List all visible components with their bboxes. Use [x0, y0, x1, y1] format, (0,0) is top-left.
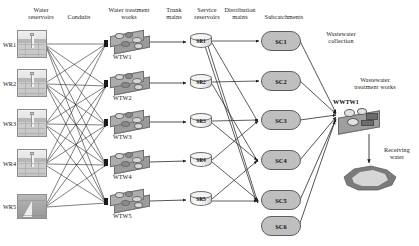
service-reservoir-label: SR3	[190, 118, 212, 124]
reservoir-grid-v2	[38, 82, 39, 96]
header-trunk-line1: Trunk	[166, 6, 181, 13]
header-receiving-water: Receiving water	[376, 146, 418, 160]
reservoir-knob	[30, 33, 34, 36]
node-label-WTW3: WTW3	[113, 133, 132, 140]
node-label-WTW4: WTW4	[113, 173, 132, 180]
reservoir-post	[31, 113, 34, 127]
header-wastewater-treatment-works: Wastewater treatment works	[340, 76, 410, 90]
water-treatment-works-WTW4-icon[interactable]	[108, 151, 150, 173]
conduit-edges	[47, 44, 106, 207]
reservoir-grid-h2	[19, 168, 45, 169]
header-wtw-line1: Water treatment	[108, 6, 149, 13]
header-wwtw-line2: treatment works	[354, 83, 396, 90]
wwtw-clarifier-3	[347, 118, 359, 126]
service-reservoir-SR4[interactable]: SR4	[190, 152, 212, 169]
node-label-WTW2: WTW2	[113, 94, 132, 101]
node-label-WR2: WR2	[3, 80, 16, 87]
diagram-canvas: Water reservoirs Conduits Water treatmen…	[0, 0, 419, 246]
header-wwtw-line1: Wastewater	[360, 76, 390, 83]
subcatchment-SC5[interactable]: SC5	[261, 190, 301, 210]
plant-tank-5	[134, 84, 143, 90]
node-label-WWTW1: WWTW1	[333, 98, 359, 105]
header-wwcoll-line2: collection	[328, 37, 353, 44]
wwtw-basin-1	[366, 113, 378, 120]
header-wastewater-collection: Wastewater collection	[314, 30, 368, 44]
service-reservoir-SR1[interactable]: SR1	[190, 33, 212, 50]
plant-tank-2	[125, 191, 133, 197]
header-recv-line2: water	[390, 153, 404, 160]
node-label-WR4: WR4	[3, 160, 16, 167]
distribution-main-edges	[205, 41, 259, 203]
plant-tank-5	[134, 123, 143, 129]
plant-tank-1	[115, 192, 124, 198]
reservoir-grid-h1	[19, 200, 45, 201]
reservoir-knob	[30, 112, 34, 115]
service-reservoir-SR5[interactable]: SR5	[190, 191, 212, 208]
water-reservoir-WR2-icon[interactable]	[17, 69, 47, 97]
reservoir-grid-v1	[25, 82, 26, 96]
plant-tank-5	[134, 202, 143, 208]
plant-tank-1	[115, 33, 124, 39]
wastewater-collection-edges	[299, 41, 336, 226]
header-wtw-line2: works	[121, 13, 137, 20]
water-treatment-works-WTW1-icon[interactable]	[108, 31, 150, 53]
service-reservoir-label: SR4	[190, 157, 212, 163]
plant-tank-2	[125, 152, 133, 158]
water-treatment-works-WTW5-icon[interactable]	[108, 190, 150, 212]
header-trunk-line2: mains	[166, 13, 181, 20]
reservoir-grid-h3	[19, 93, 45, 94]
node-label-WTW5: WTW5	[113, 212, 132, 219]
reservoir-grid-h3	[19, 133, 45, 134]
header-subcatchments: Subcatchments	[256, 13, 312, 20]
plant-tank-4	[121, 161, 130, 167]
water-reservoir-WR3-icon[interactable]	[17, 109, 47, 137]
reservoir-grid-v1	[25, 122, 26, 136]
reservoir-grid-h1	[19, 123, 45, 124]
header-water-reservoirs-line1: Water	[33, 6, 48, 13]
service-reservoir-label: SR1	[190, 38, 212, 44]
reservoir-grid-h3	[19, 173, 45, 174]
node-label-WR5: WR5	[3, 203, 16, 210]
wwtw-clarifier-1	[344, 109, 355, 117]
water-reservoir-WR1-icon[interactable]	[17, 30, 47, 58]
header-service-line1: Service	[197, 6, 216, 13]
subcatchment-SC1[interactable]: SC1	[261, 31, 301, 51]
subcatchment-SC2[interactable]: SC2	[261, 71, 301, 91]
plant-tank-4	[121, 41, 130, 47]
reservoir-post	[31, 34, 34, 48]
reservoir-grid-v2	[38, 43, 39, 57]
wastewater-treatment-works-WWTW1-icon[interactable]	[338, 106, 380, 132]
plant-tank-2	[125, 73, 133, 79]
water-treatment-works-WTW3-icon[interactable]	[108, 111, 150, 133]
water-reservoir-WR5-icon[interactable]	[17, 194, 47, 219]
water-treatment-works-WTW2-icon[interactable]	[108, 72, 150, 94]
reservoir-grid-h2	[19, 49, 45, 50]
reservoir-grid-v2	[38, 162, 39, 176]
reservoir-grid-h3	[19, 54, 45, 55]
service-reservoir-label: SR5	[190, 196, 212, 202]
plant-tank-1	[115, 74, 124, 80]
reservoir-grid-v1	[25, 162, 26, 176]
reservoir-post	[31, 73, 34, 87]
reservoir-post	[31, 153, 34, 167]
plant-tank-5	[134, 163, 143, 169]
subcatchment-SC6[interactable]: SC6	[261, 216, 301, 236]
service-reservoir-SR3[interactable]: SR3	[190, 113, 212, 130]
plant-tank-4	[121, 121, 130, 127]
subcatchment-SC3[interactable]: SC3	[261, 110, 301, 130]
plant-tank-5	[134, 43, 143, 49]
node-label-WR1: WR1	[3, 41, 16, 48]
service-reservoir-SR2[interactable]: SR2	[190, 74, 212, 91]
wwtw-basin-2	[361, 120, 374, 126]
node-label-WR3: WR3	[3, 120, 16, 127]
reservoir-grid-v1	[25, 43, 26, 57]
service-reservoir-label: SR2	[190, 79, 212, 85]
trunk-main-edges	[150, 42, 186, 201]
reservoir-grid-h1	[19, 83, 45, 84]
receiving-water-body[interactable]	[340, 163, 398, 193]
plant-tank-4	[121, 200, 130, 206]
reservoir-grid-v2	[38, 122, 39, 136]
water-reservoir-WR4-icon[interactable]	[17, 149, 47, 177]
header-dist-line1: Distribution	[224, 6, 255, 13]
subcatchment-SC4[interactable]: SC4	[261, 150, 301, 170]
